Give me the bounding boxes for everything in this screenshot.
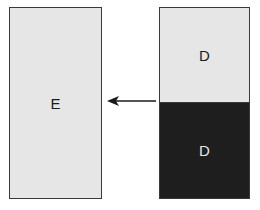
arrow-d-to-e <box>0 0 260 210</box>
